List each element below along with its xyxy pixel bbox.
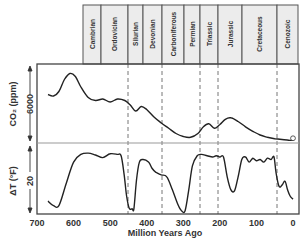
x-tick-label: 100: [249, 218, 264, 228]
x-tick-label: 200: [212, 218, 227, 228]
x-tick-label: 700: [29, 218, 44, 228]
co2-axis-label: CO₂ (ppm): [8, 82, 18, 127]
geologic-period-boxes: CambrianOrdovicianSilurianDevonianCarbon…: [83, 5, 298, 64]
co2-ytick-label: 6000: [25, 94, 35, 114]
period-label: Jurassic: [227, 20, 234, 47]
period-label: Ordovician: [111, 17, 118, 51]
period-box-triassic: Triassic: [200, 5, 218, 64]
period-label: Silurian: [132, 22, 139, 46]
plot-frame: [37, 64, 299, 214]
geologic-co2-temperature-chart: CambrianOrdovicianSilurianDevonianCarbon…: [0, 0, 308, 246]
x-axis-tick-labels: 7006005004003002001000: [29, 218, 295, 228]
period-box-devonian: Devonian: [143, 5, 162, 64]
period-boundary-dashed-lines: [128, 64, 277, 214]
x-axis-label: Million Years Ago: [128, 228, 203, 238]
x-tick-label: 400: [139, 218, 154, 228]
x-tick-label: 0: [290, 218, 295, 228]
temperature-curve: [48, 153, 293, 212]
period-box-cenozoic: Cenozoic: [277, 5, 298, 64]
arrow-down-icon: [28, 136, 32, 141]
period-box-jurassic: Jurassic: [218, 5, 242, 64]
co2-curve: [48, 73, 293, 140]
period-box-cretaceous: Cretaceous: [242, 5, 277, 64]
x-tick-label: 500: [103, 218, 118, 228]
period-label: Devonian: [149, 19, 156, 48]
period-label: Cenozoic: [284, 19, 291, 48]
period-box-permian: Permian: [184, 5, 200, 64]
arrow-up-icon: [28, 146, 32, 151]
period-label: Carboniferous: [170, 11, 177, 56]
period-box-cambrian: Cambrian: [83, 5, 101, 64]
x-tick-label: 600: [66, 218, 81, 228]
x-tick-label: 300: [176, 218, 191, 228]
period-label: Permian: [189, 21, 196, 47]
period-label: Triassic: [206, 22, 213, 47]
temperature-ytick-label: 20: [25, 176, 35, 186]
arrow-down-icon: [28, 208, 32, 213]
arrow-up-icon: [28, 66, 32, 71]
period-label: Cretaceous: [256, 16, 263, 52]
temperature-axis-label: ΔT (°F): [8, 166, 18, 196]
period-label: Cambrian: [89, 19, 96, 49]
co2-endpoint-marker: [291, 136, 296, 141]
y-axis-arrows: [28, 66, 32, 213]
period-box-carboniferous: Carboniferous: [162, 5, 184, 64]
period-box-ordovician: Ordovician: [101, 5, 128, 64]
period-box-silurian: Silurian: [128, 5, 143, 64]
